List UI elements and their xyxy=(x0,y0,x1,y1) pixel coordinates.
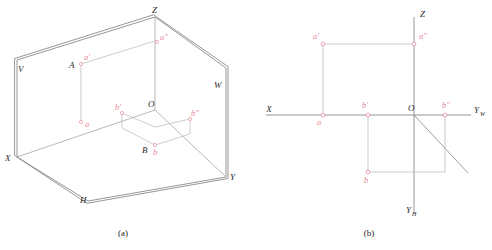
label-a-front: a' xyxy=(84,52,90,62)
label-b-top: b xyxy=(364,175,368,185)
marker-a-side xyxy=(412,42,416,46)
b-top-right-edge xyxy=(155,134,190,145)
label-axis-x: X xyxy=(4,153,11,163)
label-origin: O xyxy=(148,99,155,109)
a-front-to-z xyxy=(81,41,155,64)
marker-b-side xyxy=(443,113,447,117)
label-plane-h: H xyxy=(79,195,87,205)
label-axis-yh-group: Y H xyxy=(406,205,417,217)
w-plane-top-edge xyxy=(155,17,226,68)
figure-a-caption: (a) xyxy=(0,228,246,238)
figure-b-orthographic: X Z O Y W Y H a' a″ a b' b″ b (b) xyxy=(246,0,492,250)
label-a-front: a' xyxy=(313,31,319,41)
label-axis-y: Y xyxy=(230,172,236,182)
marker-b-top xyxy=(366,170,370,174)
label-a-side: a″ xyxy=(160,32,168,42)
label-b-front: b' xyxy=(362,100,368,110)
marker-b-front xyxy=(366,113,370,117)
figure-sheet: V W H X Y Z O A B a' a″ a b' b″ b (a) xyxy=(0,0,492,250)
interior-axes xyxy=(17,17,226,177)
label-plane-w: W xyxy=(214,80,223,90)
figure-b-canvas: X Z O Y W Y H a' a″ a b' b″ b xyxy=(246,0,492,250)
label-point-B: B xyxy=(142,145,148,155)
point-a-projection-lines xyxy=(323,44,414,115)
label-axis-yh-subscript: H xyxy=(411,211,417,217)
point-markers-b xyxy=(321,42,447,174)
label-b-top: b xyxy=(153,147,157,157)
label-b-side: b″ xyxy=(442,100,450,110)
label-a-top: a xyxy=(317,117,321,127)
marker-a-front xyxy=(321,42,325,46)
figure-a-pictorial: V W H X Y Z O A B a' a″ a b' b″ b (a) xyxy=(0,0,246,250)
h-plane-right-edge-2 xyxy=(87,179,228,204)
figure-b-caption: (b) xyxy=(246,228,492,238)
label-a-top: a xyxy=(85,119,89,129)
h-plane-right-edge xyxy=(88,177,226,201)
label-b-front: b' xyxy=(115,102,121,112)
label-axis-yw-group: Y W xyxy=(474,105,486,117)
label-plane-v: V xyxy=(18,64,25,74)
marker-a-top xyxy=(321,113,325,117)
label-axis-z: Z xyxy=(420,9,426,19)
label-a-side: a″ xyxy=(419,31,427,41)
label-axis-z: Z xyxy=(152,5,158,15)
marker-a-side xyxy=(155,40,158,43)
label-point-A: A xyxy=(68,60,75,70)
figure-a-canvas: V W H X Y Z O A B a' a″ a b' b″ b xyxy=(0,0,246,250)
h-plane-left-edge-2 xyxy=(15,156,87,204)
point-b-projection-lines xyxy=(368,115,445,172)
axis-ox xyxy=(17,110,155,157)
label-axis-yw-subscript: W xyxy=(480,111,486,117)
b-side-to-axis xyxy=(155,119,190,127)
marker-a-front xyxy=(79,62,82,65)
bisector-45-line xyxy=(414,115,468,173)
b-front-to-axis xyxy=(122,113,155,127)
b-top-left-edge xyxy=(122,128,155,145)
point-markers-a xyxy=(79,40,191,146)
marker-a-top xyxy=(79,120,82,123)
label-axis-x: X xyxy=(265,104,272,114)
label-b-side: b″ xyxy=(191,108,199,118)
label-origin: O xyxy=(408,103,415,113)
